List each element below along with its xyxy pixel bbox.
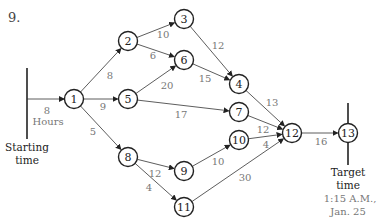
node-label: 10 xyxy=(232,134,246,147)
target-label-line4: Jan. 25 xyxy=(329,206,366,217)
problem-number: 9. xyxy=(8,10,20,25)
node-12: 12 xyxy=(283,124,302,143)
edge-weight: 10 xyxy=(212,156,225,167)
edge-weight: 12 xyxy=(149,168,162,179)
edge-weight: 4 xyxy=(146,182,152,193)
edge-weight: 17 xyxy=(175,109,188,120)
node-label: 11 xyxy=(177,201,191,214)
node-5: 5 xyxy=(119,90,138,109)
target-label-line3: 1:15 A.M., xyxy=(324,193,377,204)
edge-weight: 5 xyxy=(90,126,96,137)
node-label: 8 xyxy=(125,151,132,164)
node-6: 6 xyxy=(175,51,194,70)
start-edge-unit: Hours xyxy=(32,116,63,127)
edge-weight: 9 xyxy=(100,101,106,112)
node-8: 8 xyxy=(119,148,138,167)
node-label: 3 xyxy=(181,13,188,26)
edge-weight: 16 xyxy=(315,136,328,147)
node-label: 5 xyxy=(125,93,132,106)
edge-weight: 15 xyxy=(199,73,212,84)
start-edge-weight: 8 xyxy=(44,105,50,116)
start-label-line1: Starting xyxy=(5,141,49,153)
node-label: 6 xyxy=(181,54,188,67)
network-diagram: 9. 8 Hours Starting time Target time 1:1… xyxy=(0,0,383,224)
edge-weight: 12 xyxy=(212,40,225,51)
edge-weight: 6 xyxy=(150,50,156,61)
node-10: 10 xyxy=(230,131,249,150)
edge-weight: 4 xyxy=(263,139,269,150)
edge-weight: 13 xyxy=(266,97,279,108)
node-label: 9 xyxy=(181,165,188,178)
node-4: 4 xyxy=(230,75,249,94)
node-11: 11 xyxy=(175,198,194,217)
node-9: 9 xyxy=(175,162,194,181)
node-2: 2 xyxy=(119,32,138,51)
node-label: 1 xyxy=(71,93,78,106)
edge-weight: 8 xyxy=(107,70,113,81)
edge-weight: 20 xyxy=(161,80,174,91)
node-label: 7 xyxy=(236,106,243,119)
target-label-line1: Target xyxy=(331,166,366,178)
edge-weight: 12 xyxy=(257,124,270,135)
edge-weight: 30 xyxy=(239,172,252,183)
node-1: 1 xyxy=(65,90,84,109)
target-label-line2: time xyxy=(336,179,360,191)
start-label-line2: time xyxy=(15,154,39,166)
node-label: 4 xyxy=(236,78,243,91)
node-label: 12 xyxy=(285,127,299,140)
edge-1-2 xyxy=(80,49,120,92)
edge-3-4 xyxy=(190,26,232,76)
node-7: 7 xyxy=(230,103,249,122)
node-13: 13 xyxy=(339,124,358,143)
edge-weight: 10 xyxy=(157,29,170,40)
edge-1-8 xyxy=(80,106,120,149)
node-3: 3 xyxy=(175,10,194,29)
node-label: 2 xyxy=(125,35,132,48)
node-label: 13 xyxy=(341,127,355,140)
